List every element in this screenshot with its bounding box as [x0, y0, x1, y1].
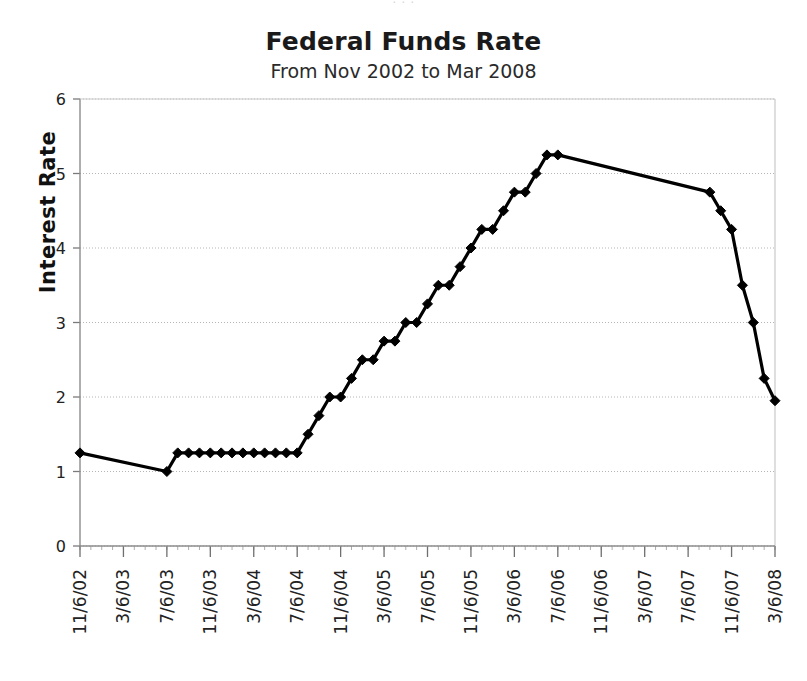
gridlines [80, 99, 775, 546]
x-tick-label: 3/6/08 [765, 569, 785, 624]
series-polyline [80, 155, 775, 472]
x-tick-label: 3/6/06 [504, 569, 524, 624]
x-tick-label: 7/6/05 [418, 569, 438, 624]
data-point-marker [770, 396, 780, 406]
x-tick-label: 11/6/06 [591, 569, 611, 635]
data-point-marker [759, 373, 769, 383]
x-tick-label: 3/6/04 [244, 569, 264, 624]
data-point-marker [748, 318, 758, 328]
data-point-marker [75, 448, 85, 458]
data-line [80, 155, 775, 472]
data-point-marker [194, 448, 204, 458]
x-tick-label: 3/6/07 [635, 569, 655, 624]
x-tick-label: 7/6/07 [678, 569, 698, 624]
x-tick-label: 11/6/03 [200, 569, 220, 635]
x-tick-label: 11/6/07 [722, 569, 742, 635]
x-axis-ticks [80, 546, 775, 557]
y-tick-label: 6 [56, 90, 66, 109]
y-tick-label: 5 [56, 165, 66, 184]
data-point-marker [260, 448, 270, 458]
data-point-marker [281, 448, 291, 458]
y-tick-label: 2 [56, 388, 66, 407]
data-point-marker [184, 448, 194, 458]
y-axis-tick-labels: 0123456 [56, 90, 66, 556]
x-axis-tick-labels: 11/6/023/6/037/6/0311/6/033/6/047/6/0411… [70, 569, 785, 635]
y-tick-label: 0 [56, 537, 66, 556]
x-tick-label: 3/6/05 [374, 569, 394, 624]
data-point-marker [216, 448, 226, 458]
x-tick-label: 11/6/04 [331, 569, 351, 635]
x-tick-label: 7/6/04 [287, 569, 307, 624]
data-point-marker [205, 448, 215, 458]
x-tick-label: 11/6/05 [461, 569, 481, 635]
data-point-marker [227, 448, 237, 458]
x-tick-label: 7/6/06 [548, 569, 568, 624]
axis-lines [80, 99, 775, 546]
x-tick-label: 7/6/03 [157, 569, 177, 624]
data-point-marker [270, 448, 280, 458]
data-point-marker [553, 150, 563, 160]
data-point-marker [238, 448, 248, 458]
chart-figure: · · · Federal Funds Rate From Nov 2002 t… [0, 0, 807, 681]
x-tick-label: 3/6/03 [113, 569, 133, 624]
x-tick-label: 11/6/02 [70, 569, 90, 635]
data-point-marker [737, 280, 747, 290]
y-tick-label: 3 [56, 314, 66, 333]
data-point-marker [249, 448, 259, 458]
plot-area: 0123456 11/6/023/6/037/6/0311/6/033/6/04… [0, 0, 807, 681]
y-tick-label: 1 [56, 463, 66, 482]
y-tick-label: 4 [56, 239, 66, 258]
data-markers [75, 150, 780, 477]
y-axis-ticks [73, 99, 80, 546]
